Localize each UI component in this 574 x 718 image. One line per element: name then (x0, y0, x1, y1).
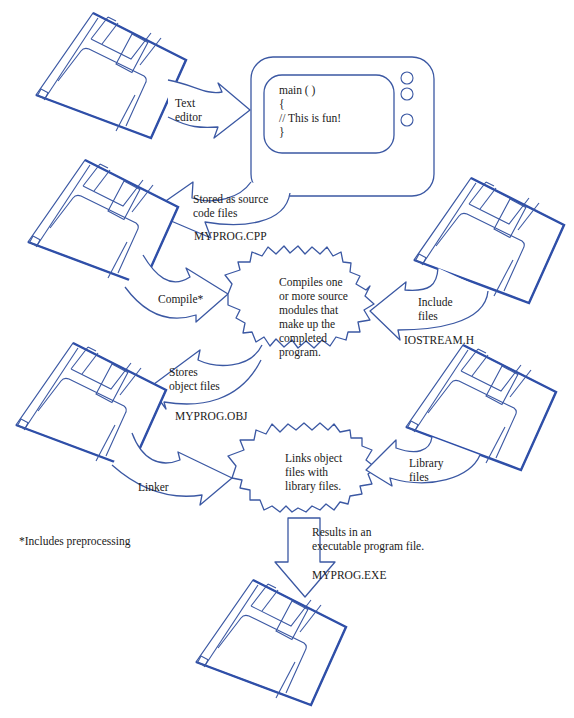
file-name-cpp: MYPROG.CPP (194, 230, 267, 244)
code-line: } (279, 126, 285, 140)
compile-arrow (125, 255, 228, 322)
compile-burst-text: Compiles one (279, 276, 343, 290)
library-files-label-2: files (409, 471, 429, 485)
file-name-obj: MYPROG.OBJ (175, 410, 248, 424)
results-label-2: executable program file. (312, 540, 424, 554)
file-name-header: IOSTREAM.H (404, 334, 474, 348)
compile-burst-text: completed (279, 332, 327, 346)
link-burst-text: library files. (285, 480, 341, 494)
link-burst-text: Links object (285, 452, 342, 466)
stored-source-label-2: code files (193, 207, 237, 221)
code-line: { (279, 98, 285, 112)
compile-burst-text: modules that (279, 304, 338, 318)
text-editor-label-2: editor (175, 111, 202, 125)
results-label-1: Results in an (312, 526, 371, 540)
floppy-disk-icon (16, 343, 166, 468)
code-line: // This is fun! (279, 112, 341, 126)
file-name-exe: MYPROG.EXE (312, 569, 386, 583)
floppy-disk-icon (28, 160, 178, 285)
stores-object-arrow (150, 345, 262, 409)
stores-object-label-2: object files (169, 380, 220, 394)
include-files-label-1: Include (418, 296, 452, 310)
linker-label: Linker (138, 481, 169, 495)
code-line: main ( ) (279, 84, 315, 98)
compile-burst-text: program. (279, 346, 321, 360)
include-files-label-2: files (418, 310, 438, 324)
library-files-label-1: Library (409, 457, 443, 471)
floppy-disk-icon (196, 580, 346, 705)
compile-burst-text: make up the (279, 318, 335, 332)
footnote: *Includes preprocessing (19, 535, 130, 549)
compile-label: Compile* (158, 293, 203, 307)
linker-arrow (112, 433, 232, 505)
link-burst-text: files with (285, 466, 328, 480)
compile-burst-text: or more source (279, 290, 348, 304)
floppy-disk-icon (36, 13, 186, 138)
stored-source-label-1: Stored as source (193, 193, 268, 207)
stores-object-label-1: Stores (169, 366, 198, 380)
text-editor-label-1: Text (175, 97, 195, 111)
